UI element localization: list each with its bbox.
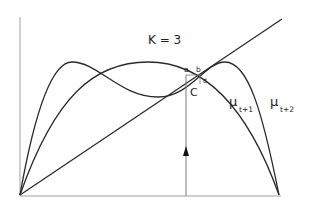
curve-mu-t-plus-1 <box>20 62 279 195</box>
mu-t2-symbol: μ <box>270 94 278 109</box>
mu-t2-subscript: t+2 <box>280 105 294 114</box>
point-label-c: c <box>203 76 207 85</box>
up-arrow-icon <box>183 146 189 156</box>
mu-t1-subscript: t+1 <box>239 105 253 114</box>
point-label-b: b <box>196 65 201 74</box>
curve-mu-t-plus-2 <box>20 62 279 195</box>
point-label-C: C <box>190 86 198 99</box>
bifurcation-diagram: K = 3 a b c C μ t+1 μ t+2 <box>0 0 313 209</box>
point-label-a: a <box>184 65 189 74</box>
k-value-label: K = 3 <box>148 33 181 47</box>
mu-t1-symbol: μ <box>229 94 237 109</box>
